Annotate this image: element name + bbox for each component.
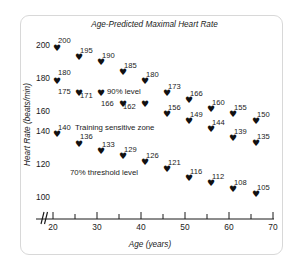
data-point-value-label: 155 [234,104,247,112]
data-point-value-label: 133 [102,141,115,149]
data-point-value-label: 140 [58,124,71,132]
data-point-value-label: 180 [58,69,71,77]
data-point-value-label: 171 [80,92,93,100]
data-point-value-label: 173 [168,83,181,91]
data-point-value-label: 144 [212,119,225,127]
data-point-value-label: 136 [80,133,93,141]
annotation-90-percent-level: 90% level [107,87,141,96]
data-point-value-label: 166 [101,100,114,108]
annotation-70-percent-threshold: 70% threshold level [70,168,138,177]
data-point-value-label: 150 [257,111,270,119]
annotation-training-sensitive-zone: Training sensitive zone [75,123,154,132]
x-tick-label: 30 [85,222,109,232]
data-point-value-label: 108 [234,179,247,187]
data-point-value-label: 116 [190,168,202,176]
chart-figure: Age-Predicted Maximal Heart Rate Heart R… [0,0,297,270]
data-point-value-label: 200 [58,37,71,45]
x-tick-label: 60 [217,222,241,232]
data-point-value-label: 162 [123,103,136,111]
heart-marker-icon: ♥ [53,44,61,53]
data-point-value-label: 190 [102,52,115,60]
x-tick-label: 50 [173,222,197,232]
data-point-value-label: 185 [124,62,137,70]
data-point-value-label: 156 [168,104,181,112]
data-point-value-label: 166 [190,90,203,98]
data-point-value-label: 112 [212,173,224,181]
data-point-value-label: 175 [58,88,71,96]
x-tick-label: 20 [41,222,65,232]
x-tick-label: 70 [261,222,285,232]
data-point-value-label: 180 [146,71,159,79]
heart-marker-icon: ♥ [75,140,83,149]
data-point-value-label: 126 [146,152,159,160]
data-point-value-label: 121 [168,159,181,167]
x-tick-label: 40 [129,222,153,232]
data-point-value-label: 105 [257,184,270,192]
heart-marker-icon: ♥ [141,100,149,109]
data-point-value-label: 129 [124,146,137,154]
heart-marker-icon: ♥ [97,89,105,98]
data-point-value-label: 139 [234,128,247,136]
heart-marker-icon: ♥ [53,77,61,86]
data-point-value-label: 149 [190,111,203,119]
data-point-value-label: 160 [212,99,225,107]
data-point-value-label: 195 [80,47,93,55]
data-point-value-label: 135 [257,133,270,141]
